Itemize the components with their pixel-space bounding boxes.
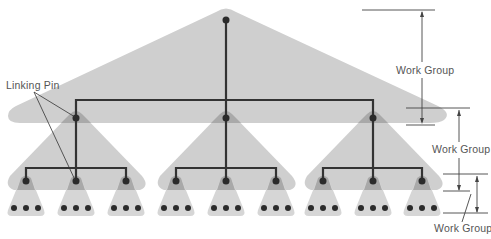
- top-node: [223, 17, 230, 24]
- middle-node: [223, 115, 230, 122]
- linking-pin-label: Linking Pin: [6, 79, 60, 91]
- top-work-group-shape: [8, 9, 447, 124]
- work-group-bottom-label: Work Group: [434, 222, 491, 234]
- work-group-top-label: Work Group: [396, 64, 454, 76]
- middle-node: [73, 115, 80, 122]
- leaf-dots: [11, 205, 437, 211]
- work-group-middle-label: Work Group: [432, 143, 490, 155]
- middle-node: [370, 115, 377, 122]
- linking-pin-diagram: Linking Pin Work Group Work Group Work G…: [0, 0, 491, 239]
